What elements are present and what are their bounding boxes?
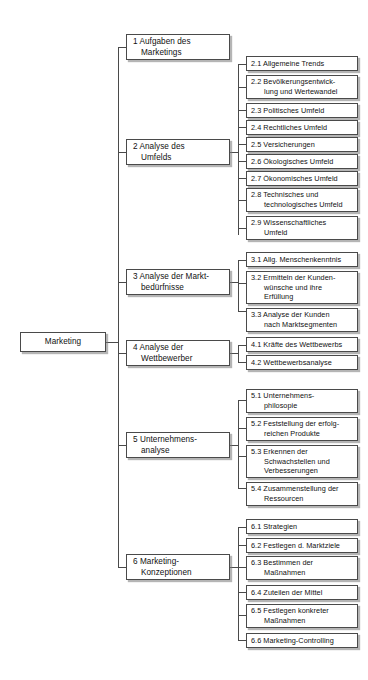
node-label: 2.6 Ökologisches Umfeld (251, 157, 357, 167)
node-label: 3.3 Analyse der Kunden nach Marktsegment… (251, 310, 357, 329)
node-2-6-oekologisches-umfeld[interactable]: 2.6 Ökologisches Umfeld (246, 154, 358, 169)
node-root-marketing[interactable]: Marketing (20, 332, 106, 352)
node-6-5-festlegen-konkreter-massnahmen[interactable]: 6.5 Festlegen konkreter Maßnahmen (246, 604, 358, 628)
node-5-4-zusammenstellung-der-ressourcen[interactable]: 5.4 Zusammenstellung der Ressourcen (246, 482, 358, 506)
node-label: 2.4 Rechtliches Umfeld (251, 123, 357, 133)
node-6-3-bestimmen-der-massnahmen[interactable]: 6.3 Bestimmen der Maßnahmen (246, 556, 358, 580)
node-2-8-technisches-und-technologisches-umfeld[interactable]: 2.8 Technisches und technologisches Umfe… (246, 188, 358, 212)
node-1-aufgaben-des-marketings[interactable]: 1 Aufgaben des Marketings (126, 34, 230, 60)
node-2-4-rechtliches-umfeld[interactable]: 2.4 Rechtliches Umfeld (246, 120, 358, 135)
node-label: 2.2 Bevölkerungsentwick- lung und Wertew… (251, 77, 357, 96)
node-5-3-erkennen-der-schwachstellen-und-verbesserungen[interactable]: 5.3 Erkennen der Schwachstellen und Verb… (246, 445, 358, 478)
node-5-1-unternehmensphilosopie[interactable]: 5.1 Unternehmens- philosopie (246, 389, 358, 413)
node-2-analyse-des-umfelds[interactable]: 2 Analyse des Umfelds (126, 139, 230, 165)
node-label: 2.1 Allgemeine Trends (251, 59, 357, 69)
node-5-2-feststellung-der-erfolgreichen-produkte[interactable]: 5.2 Feststellung der erfolg- reichen Pro… (246, 417, 358, 441)
node-6-2-festlegen-d-marktziele[interactable]: 6.2 Festlegen d. Marktziele (246, 538, 358, 553)
node-3-3-analyse-der-kunden-nach-marktsegmenten[interactable]: 3.3 Analyse der Kunden nach Marktsegment… (246, 308, 358, 332)
node-label: 6 Marketing- Konzeptionen (133, 556, 229, 578)
node-4-2-wettbewerbsanalyse[interactable]: 4.2 Wettbewerbsanalyse (246, 355, 358, 370)
node-label: 4 Analyse der Wettbewerber (133, 342, 229, 364)
node-2-5-versicherungen[interactable]: 2.5 Versicherungen (246, 137, 358, 152)
node-label: 3.2 Ermitteln der Kunden- wünsche und ih… (251, 273, 357, 302)
node-label: Marketing (21, 337, 105, 347)
node-2-1-allgemeine-trends[interactable]: 2.1 Allgemeine Trends (246, 56, 358, 71)
node-4-analyse-der-wettbewerber[interactable]: 4 Analyse der Wettbewerber (126, 340, 230, 366)
node-4-1-kraefte-des-wettbewerbs[interactable]: 4.1 Kräfte des Wettbewerbs (246, 337, 358, 352)
node-3-1-allg-menschenkenntnis[interactable]: 3.1 Allg. Menschenkenntnis (246, 252, 358, 267)
diagram-canvas: Marketing 1 Aufgaben des Marketings 2 An… (0, 0, 368, 680)
node-label: 5.1 Unternehmens- philosopie (251, 391, 357, 410)
node-label: 2.5 Versicherungen (251, 140, 357, 150)
node-5-unternehmensanalyse[interactable]: 5 Unternehmens- analyse (126, 432, 230, 458)
node-2-7-oekonomisches-umfeld[interactable]: 2.7 Ökonomisches Umfeld (246, 171, 358, 186)
node-3-analyse-der-marktbeduerfnisse[interactable]: 3 Analyse der Markt- bedürfnisse (126, 269, 230, 295)
node-6-1-strategien[interactable]: 6.1 Strategien (246, 519, 358, 534)
node-2-2-bevoelkerungsentwicklung[interactable]: 2.2 Bevölkerungsentwick- lung und Wertew… (246, 75, 358, 99)
node-label: 2.9 Wissenschaftliches Umfeld (251, 218, 357, 237)
node-label: 2 Analyse des Umfelds (133, 141, 229, 163)
node-3-2-ermitteln-der-kundenwuensche[interactable]: 3.2 Ermitteln der Kunden- wünsche und ih… (246, 271, 358, 304)
node-2-9-wissenschaftliches-umfeld[interactable]: 2.9 Wissenschaftliches Umfeld (246, 216, 358, 240)
node-label: 2.3 Politisches Umfeld (251, 106, 357, 116)
node-label: 3 Analyse der Markt- bedürfnisse (133, 271, 229, 293)
node-2-3-politisches-umfeld[interactable]: 2.3 Politisches Umfeld (246, 103, 358, 118)
node-label: 6.4 Zuteilen der Mittel (251, 588, 357, 598)
node-label: 5.3 Erkennen der Schwachstellen und Verb… (251, 447, 357, 476)
node-label: 6.6 Marketing-Controlling (251, 636, 357, 646)
node-label: 6.1 Strategien (251, 522, 357, 532)
node-6-marketing-konzeptionen[interactable]: 6 Marketing- Konzeptionen (126, 554, 230, 580)
node-label: 5.4 Zusammenstellung der Ressourcen (251, 484, 357, 503)
node-label: 2.7 Ökonomisches Umfeld (251, 174, 357, 184)
node-6-6-marketing-controlling[interactable]: 6.6 Marketing-Controlling (246, 633, 358, 648)
node-label: 6.5 Festlegen konkreter Maßnahmen (251, 606, 357, 625)
node-label: 4.2 Wettbewerbsanalyse (251, 358, 357, 368)
node-label: 6.2 Festlegen d. Marktziele (251, 541, 357, 551)
node-label: 3.1 Allg. Menschenkenntnis (251, 255, 357, 265)
node-label: 4.1 Kräfte des Wettbewerbs (251, 340, 357, 350)
node-label: 6.3 Bestimmen der Maßnahmen (251, 558, 357, 577)
node-label: 1 Aufgaben des Marketings (133, 36, 229, 58)
node-label: 5.2 Feststellung der erfolg- reichen Pro… (251, 419, 357, 438)
node-label: 5 Unternehmens- analyse (133, 434, 229, 456)
node-6-4-zuteilen-der-mittel[interactable]: 6.4 Zuteilen der Mittel (246, 585, 358, 600)
node-label: 2.8 Technisches und technologisches Umfe… (251, 190, 357, 209)
